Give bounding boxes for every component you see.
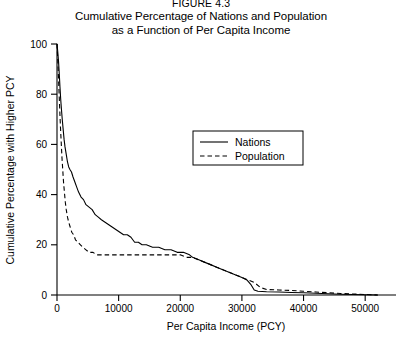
- y-tick-label: 100: [30, 39, 47, 50]
- x-tick-label: 50000: [351, 303, 379, 314]
- legend-label-population: Population: [235, 150, 285, 162]
- y-tick-label: 20: [36, 239, 48, 250]
- x-axis-tick-labels: 01000020000300004000050000: [54, 303, 379, 314]
- figure-container: FIGURE 4.3 Cumulative Percentage of Nati…: [0, 0, 402, 341]
- chart-canvas: 020406080100 01000020000300004000050000 …: [0, 0, 402, 341]
- y-axis-title: Cumulative Percentage with Higher PCY: [4, 75, 16, 264]
- x-tick-label: 30000: [228, 303, 256, 314]
- legend-label-nations: Nations: [235, 136, 271, 148]
- y-tick-label: 80: [36, 89, 48, 100]
- series-line-nations: [57, 44, 378, 295]
- y-axis-tick-labels: 020406080100: [30, 39, 47, 301]
- y-tick-label: 0: [41, 290, 47, 301]
- x-tick-label: 0: [54, 303, 60, 314]
- x-axis-ticks: [57, 295, 365, 301]
- legend: Nations Population: [193, 131, 303, 165]
- x-axis-title: Per Capita Income (PCY): [167, 320, 285, 332]
- y-tick-label: 40: [36, 189, 48, 200]
- y-tick-label: 60: [36, 139, 48, 150]
- x-tick-label: 10000: [105, 303, 133, 314]
- x-tick-label: 40000: [290, 303, 318, 314]
- y-axis-ticks: [51, 44, 57, 295]
- series-line-population: [57, 44, 378, 295]
- x-tick-label: 20000: [166, 303, 194, 314]
